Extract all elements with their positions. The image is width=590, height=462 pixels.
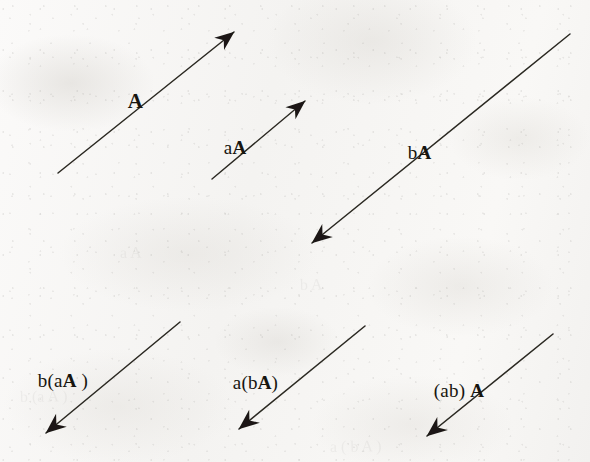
vector-scalar-multiplication-figure: b (a A ) b A a ( b A ) a A: [0, 0, 590, 462]
vector-label-aA: aA: [204, 119, 246, 176]
vector-label-bA: bA: [388, 124, 431, 181]
vector-arrow-bA: [312, 34, 570, 243]
vector-label-A: A: [106, 70, 143, 133]
vector-label-b-of-aA: b(aA ): [18, 352, 88, 409]
vector-label-a-of-bA: a(bA): [213, 354, 278, 411]
vector-label-ab-A: (ab) A: [414, 362, 484, 419]
vector-arrows-canvas: [0, 0, 590, 462]
